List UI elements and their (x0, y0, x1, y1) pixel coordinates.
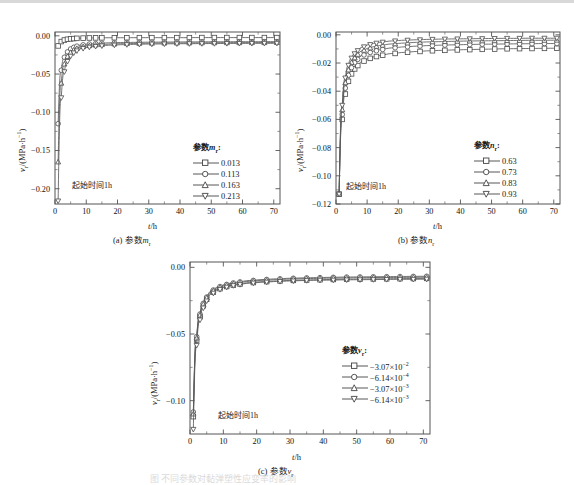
svg-text:50: 50 (207, 207, 215, 216)
svg-text:−0.10: −0.10 (31, 108, 50, 117)
svg-text:−0.10: −0.10 (166, 397, 185, 406)
svg-text:20: 20 (253, 437, 261, 446)
legend-label: 0.93 (502, 189, 517, 200)
legend-item: 0.83 (474, 178, 517, 189)
legend-title-colon: : (364, 346, 367, 355)
legend-item: 0.163 (193, 180, 240, 191)
y-symbol: v (17, 168, 27, 172)
legend-marker-square (193, 158, 219, 168)
svg-text:−0.02: −0.02 (312, 59, 331, 68)
y-symbol: v (295, 168, 305, 172)
legend-title-colon: : (218, 143, 221, 152)
legend-title-c: 参数vr: (342, 345, 409, 360)
legend-marker-circle (342, 372, 368, 382)
legend-label-base: −6.14×10 (370, 396, 402, 405)
svg-text:50: 50 (353, 437, 361, 446)
caption-prefix: (a) (113, 235, 122, 245)
legend-title-b: 参数nr: (474, 140, 517, 155)
svg-text:−0.05: −0.05 (31, 70, 50, 79)
svg-text:60: 60 (386, 437, 394, 446)
panel-b-y-axis-title: vr/(MPa·h−1) (294, 129, 307, 172)
legend-marker-triangle (193, 180, 219, 190)
svg-text:−0.05: −0.05 (166, 330, 185, 339)
svg-text:20: 20 (113, 207, 121, 216)
svg-text:70: 70 (270, 207, 278, 216)
legend-label: 0.113 (221, 169, 240, 180)
panel-a-legend: 参数mr: 0.013 0.113 0.163 0.213 (193, 142, 240, 202)
svg-text:0.00: 0.00 (36, 32, 50, 41)
svg-text:40: 40 (456, 207, 464, 216)
svg-text:30: 30 (145, 207, 153, 216)
svg-text:10: 10 (219, 437, 227, 446)
panel-b-x-axis-title: t/h (433, 221, 442, 231)
svg-text:10: 10 (82, 207, 90, 216)
legend-label: 0.163 (221, 180, 240, 191)
svg-text:10: 10 (363, 207, 371, 216)
y-symbol: v (149, 401, 159, 405)
legend-label: 0.013 (221, 158, 240, 169)
svg-text:0: 0 (334, 207, 338, 216)
top-rule (0, 0, 574, 3)
svg-text:−0.08: −0.08 (312, 144, 331, 153)
panel-c-start-annotation: 起始时间1h (218, 409, 258, 420)
panel-c-y-axis-title: vr/(MPa·h−1) (148, 362, 161, 405)
panel-a: vr/(MPa·h−1) 0102030405060700.00−0.05−0.… (0, 12, 290, 240)
legend-marker-down-triangle (474, 189, 500, 199)
svg-text:−0.04: −0.04 (312, 87, 331, 96)
legend-label: 0.83 (502, 178, 517, 189)
panel-c-x-axis-title: t/h (292, 452, 301, 462)
legend-item: 0.63 (474, 156, 517, 167)
svg-text:70: 70 (550, 207, 558, 216)
svg-text:50: 50 (487, 207, 495, 216)
legend-title-cn: 参数 (193, 143, 209, 152)
svg-text:70: 70 (419, 437, 427, 446)
legend-label-exponent: −2 (402, 361, 408, 367)
legend-item: 0.013 (193, 158, 240, 169)
legend-title-a: 参数mr: (193, 142, 240, 157)
svg-text:20: 20 (394, 207, 402, 216)
panel-a-plot: 0102030405060700.00−0.05−0.10−0.15−0.20 (0, 12, 290, 240)
legend-marker-square (474, 156, 500, 166)
y-subscript: r (301, 166, 307, 168)
legend-title-cn: 参数 (342, 346, 358, 355)
legend-item: 0.73 (474, 167, 517, 178)
y-rest: /(MPa·h (295, 138, 305, 166)
svg-text:−0.10: −0.10 (312, 172, 331, 181)
y-subscript: r (155, 399, 161, 401)
legend-marker-circle (474, 167, 500, 177)
y-sup: −1 (16, 132, 22, 138)
svg-text:−0.15: −0.15 (31, 146, 50, 155)
legend-item: −6.14×10−3 (342, 394, 409, 405)
svg-text:−0.06: −0.06 (312, 115, 331, 124)
legend-label-exponent: −3 (402, 394, 408, 400)
legend-marker-triangle (474, 178, 500, 188)
x-rest: /h (150, 221, 157, 231)
panel-a-y-axis-title: vr/(MPa·h−1) (16, 129, 29, 172)
y-close: ) (295, 129, 305, 132)
legend-title-colon: : (497, 141, 500, 150)
legend-title-cn: 参数 (474, 141, 490, 150)
legend-marker-triangle (342, 383, 368, 393)
y-close: ) (17, 129, 27, 132)
legend-marker-down-triangle (342, 394, 368, 404)
legend-item: 0.113 (193, 169, 240, 180)
panel-a-x-axis-title: t/h (148, 221, 157, 231)
legend-item: 0.213 (193, 191, 240, 202)
svg-text:30: 30 (286, 437, 294, 446)
svg-text:30: 30 (425, 207, 433, 216)
legend-marker-down-triangle (193, 191, 219, 201)
y-sup: −1 (294, 132, 300, 138)
y-rest: /(MPa·h (17, 138, 27, 166)
panel-c: vr/(MPa·h−1) 0102030405060700.00−0.05−0.… (130, 240, 450, 472)
svg-text:60: 60 (238, 207, 246, 216)
svg-text:0.00: 0.00 (317, 31, 331, 40)
svg-text:40: 40 (176, 207, 184, 216)
legend-marker-circle (193, 169, 219, 179)
x-rest: /h (435, 221, 442, 231)
panel-a-start-annotation: 起始时间1h (72, 179, 112, 190)
legend-label: 0.73 (502, 167, 517, 178)
legend-label: −6.14×10−3 (370, 392, 409, 406)
svg-text:−0.12: −0.12 (312, 200, 331, 209)
panel-b-legend: 参数nr: 0.63 0.73 0.83 0.93 (474, 140, 517, 200)
legend-label: 0.63 (502, 156, 517, 167)
